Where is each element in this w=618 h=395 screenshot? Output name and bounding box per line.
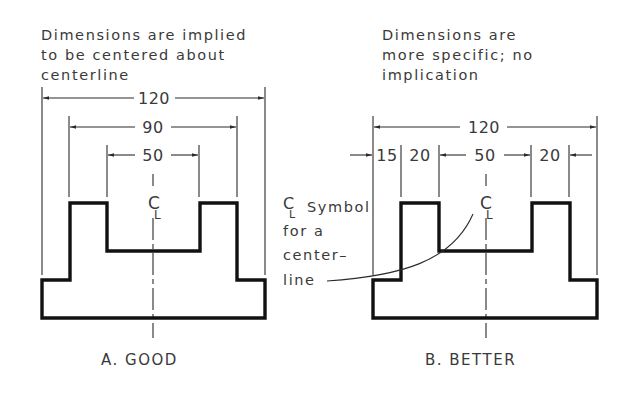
dimension-120: 120 <box>374 118 596 137</box>
figure-a: Dimensions are implied to be centered ab… <box>41 27 265 369</box>
figure-a-caption: Dimensions are implied to be centered ab… <box>41 27 247 83</box>
dimension-value: 15 <box>376 146 397 165</box>
caption-line: implication <box>382 67 480 83</box>
dimension-value: 120 <box>138 89 170 108</box>
caption-line: more specific; no <box>382 47 534 63</box>
caption-line: Dimensions are implied <box>41 27 247 43</box>
annotation-line: center– <box>283 247 348 263</box>
figure-a-label: A. GOOD <box>101 351 178 369</box>
part-outline <box>373 203 597 318</box>
dimension-value: 50 <box>474 146 495 165</box>
dimensioning-diagram: Dimensions are implied to be centered ab… <box>0 0 618 395</box>
figure-b: Dimensions are more specific; no implica… <box>350 27 597 369</box>
svg-text:L: L <box>486 208 493 222</box>
centerline-symbol: C L <box>480 193 493 222</box>
dimension-value: 20 <box>409 146 430 165</box>
dimension-value: 120 <box>468 118 500 137</box>
annotation-line: Symbol <box>307 199 371 215</box>
svg-text:L: L <box>289 208 296 221</box>
dimension-value: 90 <box>142 118 163 137</box>
annotation-line: line <box>283 272 316 288</box>
dimension-value: 50 <box>142 146 163 165</box>
dimension-value: 20 <box>539 146 560 165</box>
caption-line: centerline <box>41 67 130 83</box>
caption-line: to be centered about <box>41 47 226 63</box>
caption-line: Dimensions are <box>382 27 517 43</box>
dimension-120: 120 <box>43 89 264 108</box>
dimension-50: 50 <box>108 146 198 165</box>
figure-b-caption: Dimensions are more specific; no implica… <box>382 27 534 83</box>
figure-b-label: B. BETTER <box>425 351 516 369</box>
centerline-symbol: C L <box>148 193 161 222</box>
svg-text:L: L <box>154 208 161 222</box>
dimension-chain: 15 20 50 20 <box>350 146 592 165</box>
centerline-annotation: C L Symbol for a center– line <box>283 194 473 288</box>
dimension-90: 90 <box>70 118 236 137</box>
annotation-line: for a <box>283 223 324 239</box>
